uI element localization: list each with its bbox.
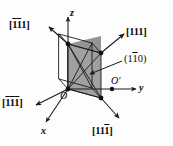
x-axis-label: x [41,126,46,136]
pl-p4: ) [143,53,147,64]
dir0-p4: ] [26,19,29,30]
z-axis-label: z [70,8,74,18]
label-direction-111bar: [111] [92,126,113,137]
vector-111bar [101,98,119,118]
label-plane-1bar10: (110) [124,54,146,65]
dir1-p4: ] [143,26,146,37]
dir3-p4: ] [109,125,112,136]
origin-o-prime-label: O′ [111,76,120,86]
origin-o-label: O [60,91,67,101]
label-direction-1bar1bar1: [111] [9,20,30,31]
dir2-p4: ] [19,97,22,108]
label-direction-111: [111] [126,27,147,38]
vector-111 [101,34,124,53]
vertex-back-top-right [99,51,104,56]
y-axis-label: y [139,83,143,93]
label-direction-1bar1bar1bar: [111] [2,98,23,109]
vertex-origin-o-prime [110,87,114,91]
crystal-cell-figure: z y x O O′ [111] [111] [111] [111] (110) [0,0,173,146]
vertex-back-bottom-right [99,96,104,101]
vertex-back-top-left [66,42,71,47]
